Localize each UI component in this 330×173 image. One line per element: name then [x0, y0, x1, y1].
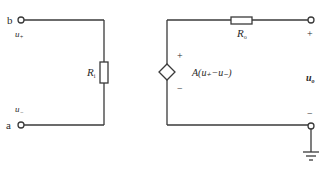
output-minus-sign: − — [307, 108, 313, 119]
op-amp-equivalent-circuit: b a u+ u− Ri + − A(u₊−u₋) Ro + uo − — [0, 0, 330, 173]
ground-icon — [303, 152, 319, 160]
ro-label: Ro — [236, 27, 247, 40]
source-minus-sign: − — [177, 83, 183, 94]
u-plus-label: u+ — [15, 29, 24, 40]
dependent-source-diamond — [159, 64, 175, 80]
terminal-b-label: b — [7, 14, 13, 26]
terminal-b — [18, 17, 24, 23]
input-resistor-ri — [100, 62, 108, 83]
terminal-out-minus — [308, 123, 314, 129]
source-gain-label: A(u₊−u₋) — [191, 67, 232, 79]
output-resistor-ro — [231, 17, 252, 24]
terminal-a-label: a — [6, 119, 11, 131]
uo-label: uo — [306, 72, 315, 84]
terminal-out-plus — [308, 17, 314, 23]
terminal-a — [18, 122, 24, 128]
output-plus-sign: + — [307, 28, 313, 39]
source-plus-sign: + — [177, 50, 183, 61]
u-minus-label: u− — [15, 104, 24, 115]
ri-label: Ri — [86, 66, 96, 79]
